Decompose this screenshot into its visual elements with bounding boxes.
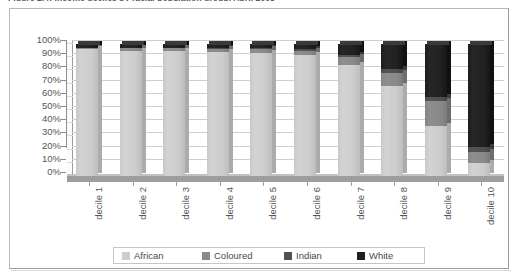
legend-label: White <box>369 250 393 261</box>
stacked-bar[interactable] <box>381 44 403 176</box>
bar-segment-depth-african <box>316 52 320 173</box>
bar-segment-depth-coloured <box>316 48 320 52</box>
bar-segment-indian[interactable] <box>250 48 272 49</box>
y-axis-tick-label: 10% <box>15 154 61 164</box>
bar-group[interactable] <box>207 44 234 176</box>
bar-segment-african[interactable] <box>338 65 360 176</box>
bar-top-cap <box>78 41 100 45</box>
stacked-bar[interactable] <box>338 44 360 176</box>
bar-segment-indian[interactable] <box>338 55 360 58</box>
bar-segment-african[interactable] <box>468 163 490 176</box>
bar-segment-coloured[interactable] <box>120 48 142 51</box>
plot-area <box>67 40 504 182</box>
bar-depth-face <box>316 41 320 173</box>
stacked-bar[interactable] <box>425 44 447 176</box>
stacked-bar[interactable] <box>294 44 316 176</box>
bar-segment-depth-african <box>185 48 189 173</box>
bar-group[interactable] <box>338 44 365 176</box>
bar-segment-depth-coloured <box>360 54 364 62</box>
y-axis-tick-label: 100% <box>15 35 61 45</box>
bar-depth-face <box>403 41 407 173</box>
bar-segment-african[interactable] <box>120 51 142 176</box>
bar-group[interactable] <box>425 44 452 176</box>
bar-segment-depth-coloured <box>272 46 276 50</box>
x-axis-tick-label: decile 9 <box>442 187 453 220</box>
bar-segment-coloured[interactable] <box>468 152 490 163</box>
legend-item-indian[interactable]: Indian <box>284 248 322 263</box>
stacked-bar[interactable] <box>163 44 185 176</box>
bar-segment-white[interactable] <box>338 44 360 55</box>
bar-segment-depth-white <box>447 41 451 94</box>
x-axis-tick <box>307 182 308 186</box>
stacked-bar[interactable] <box>76 44 98 176</box>
bar-segment-african[interactable] <box>250 53 272 176</box>
bar-segment-depth-coloured <box>447 98 451 123</box>
y-axis-labels: 0%10%20%30%40%50%60%70%80%90%100% <box>10 9 61 209</box>
legend-item-coloured[interactable]: Coloured <box>202 248 253 263</box>
frame-drop-shadow <box>11 270 511 271</box>
y-axis-tick-label: 0% <box>15 167 61 177</box>
gridline-depth <box>67 149 73 150</box>
stacked-bar[interactable] <box>207 44 229 176</box>
bar-group[interactable] <box>294 44 321 176</box>
x-axis-tick <box>394 182 395 186</box>
legend-label: Coloured <box>214 250 253 261</box>
bar-segment-coloured[interactable] <box>250 49 272 53</box>
bar-segment-indian[interactable] <box>207 48 229 49</box>
x-axis-tick <box>351 182 352 186</box>
bar-segment-depth-coloured <box>142 45 146 48</box>
legend-swatch-indian <box>284 252 292 260</box>
legend-swatch-white <box>357 252 365 260</box>
bar-segment-african[interactable] <box>163 51 185 176</box>
y-axis-tick <box>61 159 66 160</box>
bar-segment-coloured[interactable] <box>338 57 360 65</box>
bar-segment-coloured[interactable] <box>207 49 229 52</box>
bar-segment-african[interactable] <box>381 86 403 176</box>
x-axis-tick-label: decile 1 <box>93 187 104 220</box>
bar-segment-indian[interactable] <box>468 147 490 152</box>
bar-segment-white[interactable] <box>468 44 490 147</box>
legend-item-white[interactable]: White <box>357 248 393 263</box>
bar-group[interactable] <box>381 44 408 176</box>
bar-segment-depth-white <box>490 41 494 144</box>
bar-segment-coloured[interactable] <box>76 48 98 49</box>
bar-segment-indian[interactable] <box>294 49 316 50</box>
bar-group[interactable] <box>120 44 147 176</box>
bar-segment-african[interactable] <box>76 49 98 176</box>
stacked-bar[interactable] <box>250 44 272 176</box>
bar-group[interactable] <box>250 44 277 176</box>
bar-group[interactable] <box>163 44 190 176</box>
bar-segment-white[interactable] <box>425 44 447 97</box>
bar-segment-indian[interactable] <box>425 97 447 101</box>
bar-group[interactable] <box>76 44 103 176</box>
bar-top-cap <box>252 41 274 45</box>
x-axis-labels: decile 1decile 2decile 3decile 4decile 5… <box>67 185 504 241</box>
y-axis-tick <box>61 172 66 173</box>
bar-segment-african[interactable] <box>294 55 316 176</box>
x-axis-tick <box>89 182 90 186</box>
bar-segment-indian[interactable] <box>381 69 403 73</box>
bar-group[interactable] <box>468 44 495 176</box>
y-axis-tick-label: 20% <box>15 141 61 151</box>
figure-caption: Figure 2.4: Income deciles by racial pop… <box>8 0 275 1</box>
bar-segment-coloured[interactable] <box>294 51 316 55</box>
bar-segment-depth-african <box>403 83 407 173</box>
bar-top-cap <box>122 41 144 45</box>
bar-segment-white[interactable] <box>381 44 403 69</box>
bar-segment-african[interactable] <box>207 52 229 176</box>
x-axis-tick <box>438 182 439 186</box>
bar-segment-depth-coloured <box>229 46 233 49</box>
bar-segment-coloured[interactable] <box>163 48 185 51</box>
bar-segment-coloured[interactable] <box>425 101 447 126</box>
bar-segment-coloured[interactable] <box>381 73 403 86</box>
gridline-depth <box>67 96 73 97</box>
y-axis-tick-label: 90% <box>15 48 61 58</box>
stacked-bar[interactable] <box>120 44 142 176</box>
bar-top-cap <box>296 41 318 45</box>
stacked-bar[interactable] <box>468 44 490 176</box>
bar-segment-african[interactable] <box>425 126 447 176</box>
x-axis-tick-label: decile 8 <box>398 187 409 220</box>
bar-top-cap <box>427 41 449 45</box>
legend-item-african[interactable]: African <box>122 248 164 263</box>
gridline-depth <box>67 162 73 163</box>
